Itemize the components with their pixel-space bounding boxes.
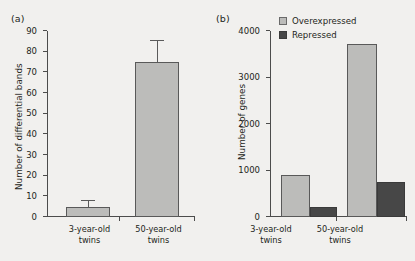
panel-a-ytick-40: 40	[43, 133, 47, 134]
panel-a-ytick-30: 30	[43, 154, 47, 155]
panel-a-ytick-70: 70	[43, 71, 47, 72]
panel-a-errorcap-3yo	[81, 200, 95, 201]
panel-a-ytick-90: 90	[43, 30, 47, 31]
panel-b-ytick-4000: 4000	[266, 30, 270, 31]
panel-a-bar-3yo	[66, 207, 110, 217]
panel-b-ytick-1000: 1000	[266, 170, 270, 171]
panel-a-ytick-10: 10	[43, 195, 47, 196]
panel-a-xlabel-50yo: 50-year-old twins	[121, 224, 196, 246]
panel-b-plot-area: 0 1000 2000 3000 4000	[270, 31, 407, 217]
panel-b-ytick-2000: 2000	[266, 123, 270, 124]
panel-b-ytick-0: 0	[266, 216, 270, 217]
panel-a-letter: (a)	[11, 13, 25, 24]
panel-b-bar-repressed-3yo	[310, 207, 337, 217]
legend-label-overexpressed: Overexpressed	[292, 16, 357, 26]
panel-b-bar-overexpressed-50yo	[347, 44, 377, 217]
panel-a: (a) Number of differential bands 0 10 20…	[0, 0, 207, 261]
legend-swatch-overexpressed-icon	[279, 17, 287, 25]
panel-b-bar-repressed-50yo	[377, 182, 405, 217]
panel-a-xtick-end	[194, 217, 195, 221]
panel-a-xlabel-3yo: 3-year-old twins	[52, 224, 127, 246]
panel-b-xtick-mid	[336, 217, 337, 221]
panel-b-xlabel-3yo: 3-year-old twins	[235, 224, 307, 246]
figure-canvas: (a) Number of differential bands 0 10 20…	[0, 0, 415, 261]
panel-a-plot-area: 0 10 20 30 40 50 60 70 80 90	[47, 31, 195, 217]
panel-a-bar-50yo	[135, 62, 179, 217]
panel-a-errorbar-50yo	[157, 41, 158, 62]
panel-a-ytick-0: 0	[43, 216, 47, 217]
panel-a-errorcap-50yo	[150, 40, 164, 41]
panel-b: (b) Overexpressed Repressed Number of ge…	[207, 0, 415, 261]
panel-b-ytick-3000: 3000	[266, 77, 270, 78]
panel-a-xtick-mid	[119, 217, 120, 221]
panel-a-errorbar-3yo	[88, 201, 89, 207]
panel-a-ytick-50: 50	[43, 113, 47, 114]
panel-b-y-axis	[270, 31, 271, 217]
panel-a-ytick-60: 60	[43, 92, 47, 93]
panel-b-letter: (b)	[216, 13, 230, 24]
legend-item-overexpressed: Overexpressed	[279, 14, 357, 28]
panel-a-ytick-80: 80	[43, 51, 47, 52]
panel-a-y-axis-label: Number of differential bands	[14, 63, 24, 190]
panel-b-bar-overexpressed-3yo	[281, 175, 310, 217]
panel-a-ytick-20: 20	[43, 175, 47, 176]
panel-b-xlabel-50yo: 50-year-old twins	[304, 224, 376, 246]
panel-a-y-axis	[47, 31, 48, 217]
panel-b-xtick-end	[406, 217, 407, 221]
